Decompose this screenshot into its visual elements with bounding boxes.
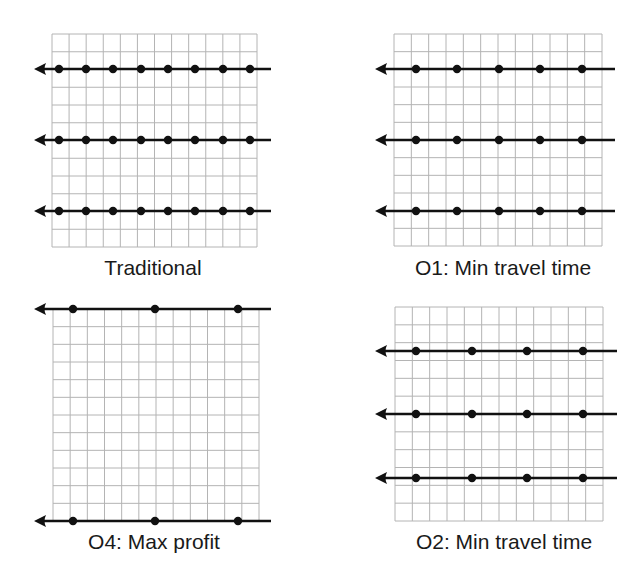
panel-o4	[34, 303, 271, 527]
arrow-left-icon	[375, 63, 387, 75]
stop-dot	[523, 347, 531, 355]
stop-dot	[453, 207, 461, 215]
stop-dot	[55, 136, 63, 144]
arrow-left-icon	[34, 515, 46, 527]
route-line	[375, 472, 617, 484]
stop-dot	[412, 136, 420, 144]
stop-dot	[578, 65, 586, 73]
stop-dot	[579, 474, 587, 482]
stop-dot	[579, 410, 587, 418]
stop-dot	[151, 517, 159, 525]
stop-dot	[246, 207, 254, 215]
stop-dot	[468, 347, 476, 355]
route-line	[375, 345, 617, 357]
arrow-left-icon	[375, 345, 387, 357]
stop-dot	[219, 65, 227, 73]
stop-dot	[109, 136, 117, 144]
panel-o2	[375, 307, 617, 521]
route-line	[34, 303, 271, 315]
stop-dot	[164, 136, 172, 144]
route-line	[34, 515, 271, 527]
stop-dot	[191, 136, 199, 144]
stop-dot	[164, 65, 172, 73]
stop-dot	[453, 136, 461, 144]
stop-dot	[246, 136, 254, 144]
stop-dot	[412, 474, 420, 482]
stop-dot	[468, 474, 476, 482]
stop-dot	[468, 410, 476, 418]
stop-dot	[495, 207, 503, 215]
grid	[53, 309, 259, 521]
stop-dot	[82, 65, 90, 73]
arrow-left-icon	[34, 63, 46, 75]
stop-dot	[82, 136, 90, 144]
stop-dot	[579, 347, 587, 355]
panel-label-o1-min-travel-time: O1: Min travel time	[415, 257, 591, 278]
stop-dot	[69, 517, 77, 525]
arrow-left-icon	[34, 134, 46, 146]
stop-dot	[523, 474, 531, 482]
route-design-figure	[0, 0, 644, 575]
stop-dot	[219, 207, 227, 215]
panel-traditional	[34, 34, 271, 247]
stop-dot	[164, 207, 172, 215]
arrow-left-icon	[375, 472, 387, 484]
arrow-left-icon	[375, 408, 387, 420]
arrow-left-icon	[34, 205, 46, 217]
panel-label-o2-min-travel-time: O2: Min travel time	[416, 531, 592, 552]
stop-dot	[151, 305, 159, 313]
arrow-left-icon	[375, 205, 387, 217]
stop-dot	[495, 65, 503, 73]
stop-dot	[412, 207, 420, 215]
panel-o1	[375, 34, 615, 246]
stop-dot	[55, 207, 63, 215]
stop-dot	[536, 65, 544, 73]
stop-dot	[523, 410, 531, 418]
stop-dot	[137, 136, 145, 144]
stop-dot	[246, 65, 254, 73]
stop-dot	[137, 207, 145, 215]
stop-dot	[55, 65, 63, 73]
stop-dot	[191, 65, 199, 73]
stop-dot	[234, 517, 242, 525]
panel-label-traditional: Traditional	[104, 257, 201, 278]
stop-dot	[453, 65, 461, 73]
panel-label-o4-max-profit: O4: Max profit	[88, 531, 220, 552]
stop-dot	[234, 305, 242, 313]
stop-dot	[109, 65, 117, 73]
stop-dot	[412, 410, 420, 418]
arrow-left-icon	[34, 303, 46, 315]
stop-dot	[495, 136, 503, 144]
stop-dot	[412, 347, 420, 355]
stop-dot	[412, 65, 420, 73]
stop-dot	[69, 305, 77, 313]
arrow-left-icon	[375, 134, 387, 146]
stop-dot	[137, 65, 145, 73]
route-line	[375, 408, 617, 420]
stop-dot	[82, 207, 90, 215]
stop-dot	[219, 136, 227, 144]
stop-dot	[109, 207, 117, 215]
stop-dot	[536, 136, 544, 144]
stop-dot	[536, 207, 544, 215]
stop-dot	[578, 207, 586, 215]
stop-dot	[578, 136, 586, 144]
stop-dot	[191, 207, 199, 215]
